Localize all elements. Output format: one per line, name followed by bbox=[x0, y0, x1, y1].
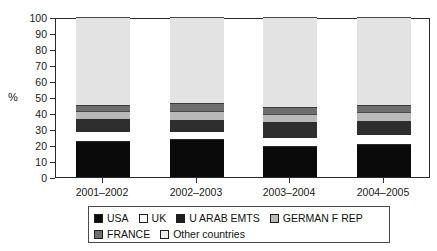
bar-segment-uk bbox=[263, 137, 317, 147]
bar-segment-other-countries bbox=[170, 17, 224, 103]
bar-2004–2005 bbox=[357, 17, 411, 177]
legend-swatch-icon bbox=[139, 214, 148, 223]
legend-swatch-icon bbox=[160, 230, 169, 239]
legend-label: GERMAN F REP bbox=[283, 213, 363, 224]
y-tick-label-100: 100 bbox=[23, 13, 47, 24]
legend-item-u-arab-emts[interactable]: U ARAB EMTS bbox=[176, 213, 260, 224]
legend-swatch-icon bbox=[176, 214, 185, 223]
bar-segment-other-countries bbox=[263, 17, 317, 107]
bar-segment-uk bbox=[170, 131, 224, 141]
legend-swatch-icon bbox=[270, 214, 279, 223]
bar-segment-german-f-rep bbox=[357, 112, 411, 121]
bars-container bbox=[56, 19, 429, 177]
legend-label: USA bbox=[107, 213, 129, 224]
x-tick-label-2001–2002: 2001–2002 bbox=[57, 186, 147, 198]
bar-segment-usa bbox=[170, 140, 224, 177]
y-tick-label-60: 60 bbox=[23, 77, 47, 88]
legend-row-2: FRANCEOther countries bbox=[94, 226, 384, 242]
stacked-bar-chart: % 0102030405060708090100 2001–20022002–2… bbox=[0, 0, 437, 251]
bar-2001–2002 bbox=[76, 17, 130, 177]
x-tick-mark-2001–2002 bbox=[102, 178, 103, 183]
bar-segment-usa bbox=[357, 145, 411, 177]
legend-item-german-f-rep[interactable]: GERMAN F REP bbox=[270, 213, 363, 224]
x-tick-label-2004–2005: 2004–2005 bbox=[338, 186, 428, 198]
legend-swatch-icon bbox=[94, 230, 103, 239]
x-tick-label-2003–2004: 2003–2004 bbox=[244, 186, 334, 198]
bar-segment-u-arab-emts bbox=[76, 119, 130, 130]
plot-area bbox=[55, 18, 430, 178]
bar-segment-u-arab-emts bbox=[263, 122, 317, 137]
y-tick-label-90: 90 bbox=[23, 29, 47, 40]
bar-segment-german-f-rep bbox=[263, 114, 317, 122]
bar-segment-german-f-rep bbox=[76, 111, 130, 119]
bar-segment-u-arab-emts bbox=[357, 121, 411, 134]
x-tick-mark-2003–2004 bbox=[289, 178, 290, 183]
x-tick-mark-2002–2003 bbox=[196, 178, 197, 183]
y-tick-label-10: 10 bbox=[23, 157, 47, 168]
bar-segment-uk bbox=[357, 134, 411, 145]
legend-label: U ARAB EMTS bbox=[189, 213, 260, 224]
bar-segment-u-arab-emts bbox=[170, 120, 224, 130]
y-tick-label-40: 40 bbox=[23, 109, 47, 120]
bar-segment-usa bbox=[263, 147, 317, 177]
legend-swatch-icon bbox=[94, 214, 103, 223]
y-tick-label-70: 70 bbox=[23, 61, 47, 72]
y-tick-mark-0 bbox=[50, 178, 55, 179]
legend-label: Other countries bbox=[173, 229, 245, 240]
legend-label: FRANCE bbox=[107, 229, 150, 240]
bar-segment-other-countries bbox=[357, 17, 411, 105]
bar-2002–2003 bbox=[170, 17, 224, 177]
y-axis-tick-labels: 0102030405060708090100 bbox=[22, 0, 47, 251]
bar-segment-france bbox=[170, 103, 224, 110]
y-tick-label-30: 30 bbox=[23, 125, 47, 136]
legend-item-other-countries[interactable]: Other countries bbox=[160, 229, 245, 240]
y-tick-label-0: 0 bbox=[23, 173, 47, 184]
bar-2003–2004 bbox=[263, 17, 317, 177]
chart-legend: USAUKU ARAB EMTSGERMAN F REP FRANCEOther… bbox=[88, 206, 390, 243]
bar-segment-german-f-rep bbox=[170, 111, 224, 121]
legend-label: UK bbox=[152, 213, 167, 224]
legend-item-usa[interactable]: USA bbox=[94, 213, 129, 224]
legend-item-france[interactable]: FRANCE bbox=[94, 229, 150, 240]
y-tick-label-50: 50 bbox=[23, 93, 47, 104]
y-axis-title: % bbox=[8, 92, 18, 103]
bar-segment-france bbox=[263, 107, 317, 114]
legend-row-1: USAUKU ARAB EMTSGERMAN F REP bbox=[94, 210, 384, 226]
bar-segment-uk bbox=[76, 131, 130, 142]
x-tick-mark-2004–2005 bbox=[383, 178, 384, 183]
bar-segment-france bbox=[357, 105, 411, 112]
legend-item-uk[interactable]: UK bbox=[139, 213, 167, 224]
bar-segment-usa bbox=[76, 142, 130, 177]
y-tick-label-20: 20 bbox=[23, 141, 47, 152]
bar-segment-other-countries bbox=[76, 17, 130, 105]
y-tick-label-80: 80 bbox=[23, 45, 47, 56]
x-tick-label-2002–2003: 2002–2003 bbox=[151, 186, 241, 198]
